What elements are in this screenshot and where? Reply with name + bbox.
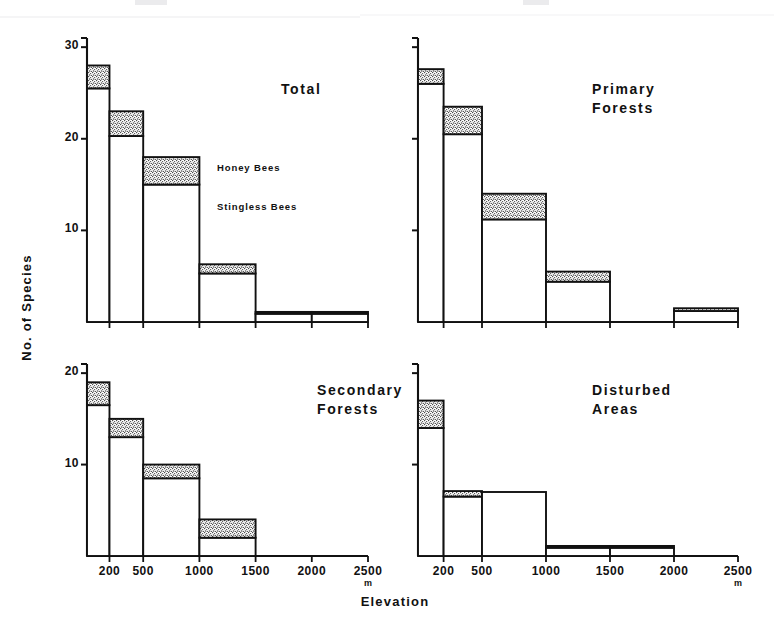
bar-honey <box>87 65 109 88</box>
x-tick-label-bottom-left-1500: 1500 <box>226 564 286 578</box>
bar-stingless <box>87 405 109 556</box>
panel-top-right <box>412 38 738 328</box>
x-axis-unit-bottom-left: m <box>364 578 372 588</box>
bar-stingless <box>482 219 546 322</box>
bar-honey <box>143 157 199 184</box>
figure-canvas: No. of Species Elevation Total Primary F… <box>0 0 774 638</box>
bar-stingless <box>87 88 109 322</box>
bar-stingless <box>199 273 255 322</box>
bar-honey <box>674 308 738 311</box>
x-tick-label-bottom-left-500: 500 <box>113 564 173 578</box>
y-tick-label-top-left-10: 10 <box>39 221 79 235</box>
bar-stingless <box>444 134 482 322</box>
bar-honey <box>312 312 368 314</box>
bar-stingless <box>546 282 610 322</box>
panel-top-left <box>81 38 368 328</box>
bar-honey <box>199 264 255 273</box>
bar-stingless <box>418 84 444 322</box>
x-axis-title: Elevation <box>315 594 475 609</box>
y-axis-title: No. of Species <box>19 238 34 378</box>
legend-label-stingless-bees: Stingless Bees <box>217 201 297 212</box>
panel-title-total: Total <box>281 80 321 99</box>
x-tick-label-bottom-left-2000: 2000 <box>282 564 342 578</box>
legend-label-honey-bees: Honey Bees <box>217 162 280 173</box>
x-tick-label-bottom-right-2000: 2000 <box>644 564 704 578</box>
bar-honey <box>546 546 610 548</box>
x-tick-label-bottom-left-1000: 1000 <box>169 564 229 578</box>
bar-honey <box>444 491 482 496</box>
bar-honey <box>256 312 312 314</box>
y-tick-label-bottom-left-20: 20 <box>39 364 79 378</box>
bar-stingless <box>418 428 444 556</box>
bar-stingless <box>143 185 199 322</box>
bar-stingless <box>199 538 255 556</box>
bar-honey <box>418 401 444 428</box>
bar-stingless <box>444 497 482 556</box>
bar-honey <box>109 111 143 136</box>
x-tick-label-bottom-right-1500: 1500 <box>580 564 640 578</box>
bar-honey <box>546 272 610 282</box>
y-tick-label-top-left-30: 30 <box>39 38 79 52</box>
panel-bottom-right <box>412 364 738 562</box>
bar-stingless <box>109 136 143 322</box>
x-tick-label-bottom-right-2500: 2500 <box>708 564 768 578</box>
bar-stingless <box>256 314 312 322</box>
y-tick-label-bottom-left-10: 10 <box>39 456 79 470</box>
panel-title-secondary-forests: Secondary Forests <box>317 381 403 419</box>
bar-honey <box>610 546 674 548</box>
y-tick-label-top-left-20: 20 <box>39 130 79 144</box>
x-tick-label-bottom-left-2500: 2500 <box>338 564 398 578</box>
bar-honey <box>109 419 143 437</box>
bar-honey <box>199 519 255 537</box>
bar-stingless <box>312 314 368 322</box>
bar-honey <box>418 69 444 84</box>
bar-honey <box>87 382 109 405</box>
bar-honey <box>482 194 546 220</box>
bar-stingless <box>610 548 674 556</box>
panel-title-primary-forests: Primary Forests <box>592 80 655 118</box>
bar-stingless <box>143 478 199 556</box>
bar-stingless <box>482 492 546 556</box>
x-tick-label-bottom-right-1000: 1000 <box>516 564 576 578</box>
panel-title-disturbed-areas: Disturbed Areas <box>592 381 672 419</box>
bar-stingless <box>546 548 610 556</box>
bar-stingless <box>674 311 738 322</box>
bar-stingless <box>109 437 143 556</box>
bar-honey <box>143 465 199 479</box>
bar-chart-svg <box>0 0 774 638</box>
x-axis-unit-bottom-right: m <box>734 578 742 588</box>
bar-honey <box>444 107 482 134</box>
x-tick-label-bottom-right-500: 500 <box>452 564 512 578</box>
